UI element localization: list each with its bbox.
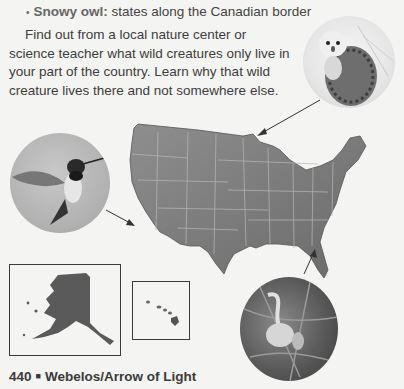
- hawaii-map-icon: [133, 282, 189, 339]
- page-number: 440: [9, 369, 32, 384]
- wading-bird-illustration-icon: [240, 277, 338, 381]
- page-footer: 440■Webelos/Arrow of Light: [9, 369, 196, 384]
- snowy-owl-image: [303, 16, 395, 108]
- hummingbird-image: [10, 133, 110, 233]
- bullet-marker: •: [26, 7, 30, 18]
- hawaii-inset: [132, 281, 190, 340]
- owl-illustration-icon: [303, 16, 395, 108]
- bullet-item-snowy-owl: •Snowy owl: states along the Canadian bo…: [26, 4, 311, 19]
- book-title: Webelos/Arrow of Light: [45, 369, 196, 384]
- alaska-map-icon: [10, 265, 120, 355]
- us-map: [128, 120, 378, 290]
- alaska-inset: [9, 264, 121, 356]
- wading-bird-image: [240, 277, 338, 381]
- us-states-map-icon: [128, 120, 378, 290]
- bullet-term: Snowy owl:: [34, 4, 108, 19]
- footer-separator: ■: [36, 371, 41, 381]
- hummingbird-illustration-icon: [10, 133, 110, 233]
- body-paragraph: Find out from a local nature center or s…: [9, 26, 294, 100]
- bullet-text: states along the Canadian border: [108, 4, 311, 19]
